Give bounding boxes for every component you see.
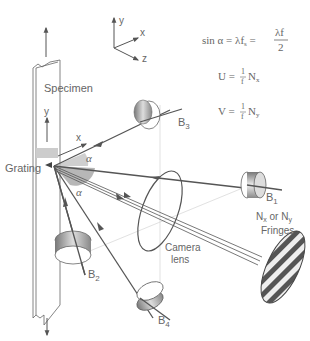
- fringe-pattern: [252, 225, 310, 309]
- specimen-x-arrow: [58, 144, 86, 156]
- beam-B2-label: B2: [88, 268, 100, 283]
- equation-3-denominator: f: [241, 112, 244, 121]
- specimen-label: Specimen: [44, 82, 93, 94]
- equation-1-numerator: λf: [275, 26, 284, 38]
- equation-2-lhs: U =: [218, 70, 235, 82]
- axis-z-label: z: [142, 53, 147, 64]
- beam-B4-label: B4: [158, 314, 170, 329]
- mirror-B4: [134, 278, 166, 314]
- beam-B1-label: B1: [266, 191, 278, 206]
- axis-y-label: y: [119, 15, 124, 26]
- grating-patch: [36, 148, 58, 158]
- beam-B3-label: B3: [178, 116, 190, 131]
- equation-2-numerator: 1: [241, 67, 245, 76]
- equation-3-numerator: 1: [241, 102, 245, 111]
- mirror-B1: [241, 172, 266, 198]
- equation-1-denominator: 2: [278, 41, 284, 53]
- coordinate-axes: [114, 18, 138, 60]
- beam-B4-arrow: [97, 222, 104, 231]
- mirror-B2: [55, 231, 91, 264]
- camera-lens-label-1: Camera: [165, 242, 201, 253]
- equation-2-denominator: f: [241, 77, 244, 86]
- equation-3-rhs: Ny: [248, 105, 260, 119]
- beam-B3-arrow: [93, 141, 103, 147]
- fringes-label-2: Fringes: [261, 225, 294, 236]
- alpha-top-label: α: [86, 152, 92, 164]
- grating-label: Grating: [5, 162, 41, 174]
- moire-interferometry-diagram: y x z Specimen y x Grating α α: [0, 0, 310, 341]
- equation-3-lhs: V =: [218, 105, 235, 117]
- specimen-x-label: x: [76, 132, 81, 143]
- specimen: [33, 60, 60, 325]
- specimen-y-label: y: [44, 106, 49, 117]
- alpha-bottom-label: α: [76, 186, 82, 198]
- equations: sin α = λfs = λf 2 U = 1 f Nx V = 1 f Ny: [202, 26, 288, 121]
- equation-1: sin α = λfs =: [202, 34, 256, 48]
- mirror-B3: [134, 100, 160, 129]
- equation-2-rhs: Nx: [248, 70, 260, 84]
- axis-x-label: x: [140, 27, 145, 38]
- camera-lens-label-2: lens: [171, 254, 189, 265]
- construction-lines: [80, 105, 250, 300]
- fringes-label-1: Nx or Ny: [256, 211, 292, 224]
